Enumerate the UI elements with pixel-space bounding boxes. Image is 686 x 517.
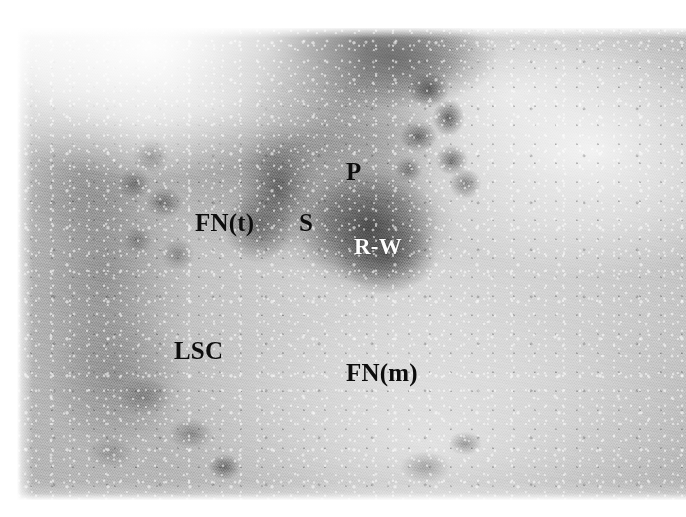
label-facial-nerve-tympanic: FN(t)	[195, 210, 254, 235]
bone-dust-speckle-layer-a	[17, 28, 686, 500]
bone-dust-speckle-layer-b	[17, 28, 686, 500]
bone-base-tone-layer	[17, 28, 686, 500]
upper-right-highlight-layer	[17, 28, 686, 500]
label-lateral-semicircular-canal: LSC	[174, 338, 223, 363]
air-cells-upper-right-layer	[17, 28, 686, 500]
label-facial-nerve-mastoid: FN(m)	[346, 360, 418, 385]
figure-container: P FN(t) S R-W LSC FN(m)	[0, 0, 686, 517]
label-stapes: S	[299, 210, 313, 235]
specimen-edge-fade-layer	[17, 28, 686, 500]
air-cells-left-rim-layer	[17, 28, 686, 500]
air-cells-lower-left-layer	[17, 28, 686, 500]
semicircular-canal-band-layer	[17, 28, 686, 500]
promontory-recess-layer	[17, 28, 686, 500]
anatomical-photograph: P FN(t) S R-W LSC FN(m)	[17, 28, 686, 500]
label-round-window: R-W	[354, 235, 402, 258]
inferior-bone-highlight-layer	[17, 28, 686, 500]
tegmen-shadow-layer	[17, 28, 686, 500]
facial-nerve-trough-layer	[17, 28, 686, 500]
round-window-niche-layer	[17, 28, 686, 500]
label-promontory: P	[346, 159, 361, 184]
film-grain-layer	[17, 28, 686, 500]
paper-margin-fade-layer	[17, 28, 686, 500]
